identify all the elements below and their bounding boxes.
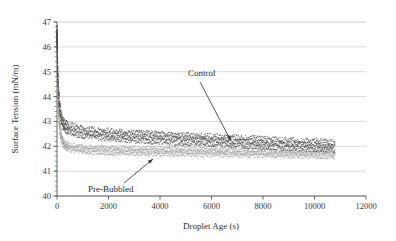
data-point (162, 143, 163, 144)
data-point (108, 138, 109, 139)
data-point (195, 135, 196, 136)
data-point (219, 150, 220, 151)
data-point (164, 153, 165, 154)
data-point (60, 130, 61, 131)
data-point (285, 150, 286, 151)
data-point (212, 156, 213, 157)
data-point (322, 142, 323, 143)
data-point (116, 154, 117, 155)
data-point (64, 131, 65, 132)
data-point (170, 142, 171, 143)
data-point (254, 145, 255, 146)
data-point (197, 148, 198, 149)
data-point (221, 139, 222, 140)
data-point (74, 152, 75, 153)
data-point (265, 151, 266, 152)
data-point (163, 155, 164, 156)
data-point (151, 133, 152, 134)
data-point (138, 138, 139, 139)
data-point (190, 135, 191, 136)
data-point (112, 154, 113, 155)
data-point (153, 149, 154, 150)
data-point (101, 141, 102, 142)
data-point (327, 152, 328, 153)
data-point (140, 148, 141, 149)
data-point (260, 137, 261, 138)
data-point (231, 156, 232, 157)
data-point (328, 147, 329, 148)
data-point (191, 137, 192, 138)
data-point (313, 151, 314, 152)
data-point (197, 153, 198, 154)
data-point (119, 153, 120, 154)
data-point (64, 118, 65, 119)
data-point (200, 147, 201, 148)
data-point (205, 145, 206, 146)
data-point (268, 144, 269, 145)
x-axis-title: Droplet Age (s) (183, 221, 239, 231)
data-point (100, 146, 101, 147)
data-point (250, 146, 251, 147)
data-point (210, 141, 211, 142)
data-point (63, 127, 64, 128)
data-point (220, 144, 221, 145)
data-point (276, 149, 277, 150)
data-point (239, 147, 240, 148)
data-point (71, 131, 72, 132)
data-point (285, 139, 286, 140)
data-point (332, 139, 333, 140)
data-point (182, 133, 183, 134)
data-point (228, 142, 229, 143)
data-point (308, 140, 309, 141)
data-point (126, 153, 127, 154)
data-point (288, 156, 289, 157)
data-point (225, 145, 226, 146)
data-point (316, 138, 317, 139)
data-point (267, 156, 268, 157)
data-point (81, 136, 82, 137)
data-point (286, 156, 287, 157)
data-point (122, 149, 123, 150)
data-point (91, 147, 92, 148)
data-point (244, 144, 245, 145)
data-point (198, 150, 199, 151)
data-point (328, 157, 329, 158)
data-point (171, 135, 172, 136)
data-point (107, 128, 108, 129)
data-point (180, 133, 181, 134)
data-point (166, 153, 167, 154)
data-point (261, 136, 262, 137)
data-point (201, 150, 202, 151)
data-point (320, 140, 321, 141)
data-point (91, 135, 92, 136)
data-point (90, 130, 91, 131)
data-point (68, 145, 69, 146)
data-point (132, 148, 133, 149)
data-point (71, 127, 72, 128)
data-point (178, 143, 179, 144)
data-point (65, 120, 66, 121)
data-point (120, 155, 121, 156)
data-point (218, 154, 219, 155)
data-point (133, 152, 134, 153)
data-point (81, 147, 82, 148)
data-point (142, 133, 143, 134)
data-point (209, 155, 210, 156)
data-point (231, 145, 232, 146)
data-point (84, 128, 85, 129)
data-point (73, 150, 74, 151)
data-point (288, 154, 289, 155)
data-point (214, 148, 215, 149)
data-point (64, 119, 65, 120)
data-point (65, 141, 66, 142)
data-point (98, 152, 99, 153)
data-point (233, 155, 234, 156)
data-point (123, 151, 124, 152)
data-point (265, 138, 266, 139)
data-point (309, 158, 310, 159)
data-point (205, 133, 206, 134)
data-point (263, 151, 264, 152)
data-point (112, 128, 113, 129)
data-point (192, 155, 193, 156)
data-point (204, 155, 205, 156)
